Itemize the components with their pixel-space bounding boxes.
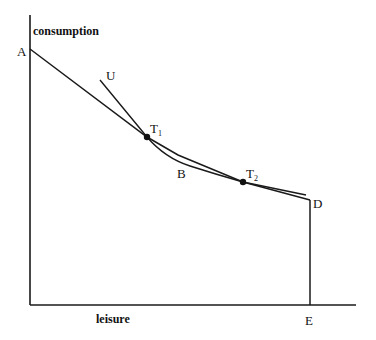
diagram-canvas: consumption leisure A U B D E T1 T2: [0, 0, 376, 340]
x-axis-label: leisure: [96, 312, 130, 326]
budget-line-upper: [30, 49, 310, 200]
point-t2-label: T2: [246, 166, 258, 183]
y-axis-label: consumption: [33, 24, 99, 38]
point-t1-letter: T: [150, 121, 158, 136]
budget-constraint-diagram: consumption leisure A U B D E T1 T2: [0, 0, 376, 340]
point-t1-label: T1: [150, 121, 162, 138]
indifference-curve-u: [100, 80, 306, 195]
point-u-label: U: [106, 68, 116, 83]
point-t2-subscript: 2: [254, 174, 258, 183]
point-a-label: A: [17, 44, 27, 59]
point-b-label: B: [177, 166, 186, 181]
point-t1-subscript: 1: [158, 129, 162, 138]
point-t2-letter: T: [246, 166, 254, 181]
point-d-label: D: [313, 196, 322, 211]
point-e-label: E: [305, 313, 313, 328]
